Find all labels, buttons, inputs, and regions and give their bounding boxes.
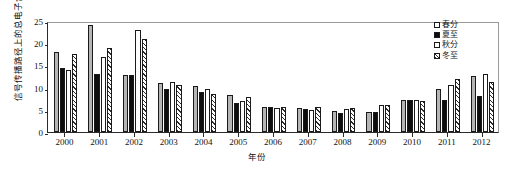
bar xyxy=(373,112,378,132)
legend-label: 冬至 xyxy=(442,52,458,60)
y-tick-label: 15 xyxy=(23,61,43,71)
bar xyxy=(274,108,279,132)
bar xyxy=(240,101,245,132)
bar xyxy=(135,30,140,132)
bar xyxy=(142,39,147,132)
y-tick-label: 0 xyxy=(23,128,43,138)
x-tick-label: 2012 xyxy=(460,137,504,147)
bar xyxy=(101,57,106,132)
bar-group xyxy=(297,23,321,132)
legend-item[interactable]: 春分 xyxy=(434,21,458,29)
bar xyxy=(344,109,349,132)
bar xyxy=(193,86,198,132)
bar xyxy=(262,107,267,132)
bar xyxy=(54,52,59,132)
bar xyxy=(436,89,441,132)
y-tick-label: 5 xyxy=(23,106,43,116)
bar xyxy=(350,108,355,132)
bar xyxy=(303,109,308,132)
bar xyxy=(414,100,419,132)
bar xyxy=(227,95,232,132)
bar xyxy=(72,54,77,132)
bar xyxy=(385,105,390,132)
legend-item[interactable]: 夏至 xyxy=(434,31,458,39)
bar xyxy=(379,105,384,132)
plot-area: 0510152025 xyxy=(47,22,499,133)
bar xyxy=(123,75,128,132)
bar-group xyxy=(193,23,217,132)
bar xyxy=(448,85,453,132)
bar xyxy=(94,74,99,132)
bar-series-container xyxy=(48,23,498,132)
x-axis-title: 年份 xyxy=(0,150,514,162)
bar xyxy=(211,94,216,132)
chart-legend: 春分夏至秋分冬至 xyxy=(434,21,458,60)
bar xyxy=(489,82,494,132)
bar xyxy=(60,68,65,132)
bar xyxy=(281,107,286,132)
legend-label: 夏至 xyxy=(442,31,458,39)
legend-item[interactable]: 冬至 xyxy=(434,52,458,60)
bar xyxy=(455,79,460,132)
bar-group xyxy=(332,23,356,132)
bar-group xyxy=(227,23,251,132)
bar xyxy=(366,112,371,132)
bar-group xyxy=(366,23,390,132)
bar xyxy=(164,89,169,132)
bar-group xyxy=(123,23,147,132)
bar-group xyxy=(401,23,425,132)
bar xyxy=(129,75,134,132)
bar xyxy=(66,70,71,132)
legend-label: 秋分 xyxy=(442,41,458,49)
bar xyxy=(170,82,175,132)
bar xyxy=(246,97,251,132)
bar-group xyxy=(88,23,112,132)
bar xyxy=(199,92,204,132)
bar xyxy=(158,83,163,132)
bar xyxy=(471,76,476,132)
bar xyxy=(420,101,425,132)
bar-group xyxy=(53,23,77,132)
legend-swatch-icon xyxy=(434,32,440,38)
bar xyxy=(88,25,93,132)
chart-figure: 信号传播路径上的总电子含量/TECU 0510152025 2000200120… xyxy=(0,0,514,175)
bar xyxy=(176,85,181,132)
legend-label: 春分 xyxy=(442,21,458,29)
bar-group xyxy=(158,23,182,132)
bar xyxy=(442,100,447,132)
bar xyxy=(205,89,210,132)
legend-swatch-icon xyxy=(434,53,440,59)
bar xyxy=(234,103,239,132)
bar-group xyxy=(471,23,495,132)
bar xyxy=(332,111,337,132)
bar xyxy=(315,107,320,132)
bar xyxy=(268,107,273,132)
bar xyxy=(107,48,112,132)
bar-group xyxy=(262,23,286,132)
bar xyxy=(297,108,302,132)
legend-swatch-icon xyxy=(434,22,440,28)
y-tick-mark xyxy=(45,134,49,135)
bar xyxy=(309,110,314,132)
y-tick-label: 20 xyxy=(23,39,43,49)
bar xyxy=(407,100,412,132)
bar xyxy=(338,113,343,132)
y-axis-title: 信号传播路径上的总电子含量/TECU xyxy=(14,0,23,101)
bar xyxy=(483,74,488,132)
y-tick-label: 25 xyxy=(23,17,43,27)
legend-item[interactable]: 秋分 xyxy=(434,41,458,49)
y-tick-label: 10 xyxy=(23,84,43,94)
bar xyxy=(401,100,406,132)
legend-swatch-icon xyxy=(434,42,440,48)
bar xyxy=(477,96,482,132)
